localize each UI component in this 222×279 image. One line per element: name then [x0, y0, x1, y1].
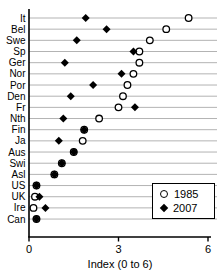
category-label: Ire	[14, 202, 26, 213]
data-point-2007	[70, 148, 78, 156]
category-label: Aus	[8, 147, 25, 158]
data-point-1985	[163, 26, 170, 33]
category-label: Por	[10, 80, 26, 91]
data-point-1985	[115, 104, 122, 111]
data-point-1985	[136, 59, 143, 66]
data-point-2007	[50, 170, 58, 178]
legend-entry-2007: 2007	[160, 202, 210, 214]
data-point-2007	[32, 182, 40, 190]
data-point-1985	[120, 93, 127, 100]
category-label: Nth	[10, 113, 26, 124]
legend-label-2007: 2007	[173, 202, 197, 214]
dot-plot-figure: 036ItBelSweSpGerNorPorDenFrNthFinJaAusSw…	[0, 0, 222, 279]
data-point-1985	[147, 37, 154, 44]
legend: 1985 2007	[152, 183, 215, 219]
category-label: UK	[12, 191, 26, 202]
category-label: Ja	[15, 135, 26, 146]
x-tick-label: 6	[205, 243, 211, 255]
category-label: Fr	[16, 102, 26, 113]
data-point-1985	[185, 15, 192, 22]
legend-entry-1985: 1985	[160, 188, 210, 200]
data-point-2007	[55, 137, 63, 145]
data-point-2007	[103, 25, 111, 33]
category-label: Nor	[9, 68, 26, 79]
category-label: Fin	[12, 124, 26, 135]
data-point-2007	[131, 103, 139, 111]
category-label: Ger	[9, 57, 26, 68]
data-point-1985	[124, 82, 131, 89]
category-label: It	[20, 13, 26, 24]
data-point-2007	[59, 115, 67, 123]
data-point-2007	[89, 81, 97, 89]
category-label: Can	[7, 214, 25, 225]
filled-diamond-icon	[159, 204, 167, 212]
category-label: Sp	[13, 46, 26, 57]
data-point-2007	[61, 59, 69, 67]
data-point-2007	[117, 70, 125, 78]
data-point-2007	[129, 48, 137, 56]
category-label: US	[12, 180, 26, 191]
data-point-2007	[32, 215, 40, 223]
chart-canvas: 036ItBelSweSpGerNorPorDenFrNthFinJaAusSw…	[0, 0, 222, 279]
category-label: Bel	[11, 24, 25, 35]
data-point-1985	[79, 138, 86, 145]
x-tick-label: 3	[115, 243, 121, 255]
category-label: Den	[7, 91, 25, 102]
data-point-2007	[67, 92, 75, 100]
x-axis-title: Index (0 to 6)	[29, 258, 211, 270]
data-point-2007	[73, 36, 81, 44]
data-point-1985	[30, 205, 37, 212]
legend-label-1985: 1985	[174, 188, 198, 200]
data-point-2007	[41, 204, 49, 212]
category-label: Swi	[9, 158, 25, 169]
data-point-2007	[82, 14, 90, 22]
data-point-2007	[58, 159, 66, 167]
data-point-1985	[96, 115, 103, 122]
data-point-1985	[130, 71, 137, 78]
x-tick-label: 0	[26, 243, 32, 255]
category-label: Asl	[12, 169, 26, 180]
open-circle-icon	[160, 190, 168, 198]
data-point-2007	[80, 126, 88, 134]
category-label: Swe	[6, 35, 26, 46]
